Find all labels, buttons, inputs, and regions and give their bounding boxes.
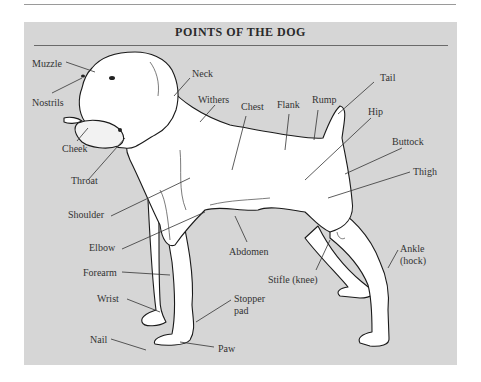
label-rump: Rump xyxy=(312,94,336,105)
label-neck: Neck xyxy=(192,68,213,79)
label-flank: Flank xyxy=(277,99,300,110)
label-hip: Hip xyxy=(368,106,383,117)
label-ankle: Ankle xyxy=(400,243,424,254)
label-stopper-pad: Stopper xyxy=(234,293,265,304)
label-withers: Withers xyxy=(198,94,229,105)
label-buttock: Buttock xyxy=(392,136,424,147)
label-nostrils: Nostrils xyxy=(32,97,64,108)
label-forearm: Forearm xyxy=(83,267,117,278)
label-muzzle: Muzzle xyxy=(32,58,62,69)
label-chest: Chest xyxy=(241,101,264,112)
label-paw: Paw xyxy=(218,343,235,354)
label-stopper-pad-line2: pad xyxy=(234,305,248,316)
label-throat: Throat xyxy=(71,175,98,186)
label-cheek: Cheek xyxy=(62,143,88,154)
label-shoulder: Shoulder xyxy=(68,209,104,220)
label-hock: (hock) xyxy=(400,255,426,266)
label-tail: Tail xyxy=(380,72,395,83)
label-stifle: Stifle (knee) xyxy=(268,274,318,285)
label-nail: Nail xyxy=(90,334,107,345)
label-wrist: Wrist xyxy=(97,293,119,304)
label-elbow: Elbow xyxy=(89,242,115,253)
label-thigh: Thigh xyxy=(413,166,437,177)
label-abdomen: Abdomen xyxy=(229,246,268,257)
dog-illustration xyxy=(0,0,481,382)
